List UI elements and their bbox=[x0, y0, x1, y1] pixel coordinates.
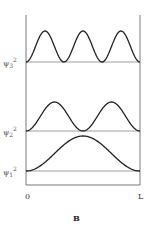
psi3-subscript: 3 bbox=[9, 62, 13, 69]
psi1-label: ψ12 bbox=[3, 166, 17, 178]
psi2-label: ψ22 bbox=[3, 126, 17, 138]
psi3-squared-curve bbox=[26, 31, 140, 62]
psi1-squared-curve bbox=[26, 136, 140, 171]
psi2-subscript: 2 bbox=[9, 131, 13, 138]
panel-label: B bbox=[73, 214, 80, 222]
probability-density-diagram bbox=[0, 0, 150, 227]
psi1-subscript: 1 bbox=[9, 171, 13, 178]
psi3-superscript: 2 bbox=[13, 56, 17, 63]
psi2-superscript: 2 bbox=[13, 125, 17, 132]
psi1-superscript: 2 bbox=[13, 165, 17, 172]
x-axis-start-label: 0 bbox=[25, 193, 30, 201]
psi2-squared-curve bbox=[26, 102, 140, 131]
psi3-label: ψ32 bbox=[3, 57, 17, 69]
x-axis-end-label: L bbox=[138, 193, 143, 201]
